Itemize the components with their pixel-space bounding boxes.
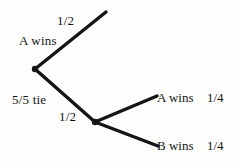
label-second-branch-probability: 1/2 — [59, 110, 76, 124]
branch-line-upper-right — [95, 96, 157, 122]
label-upper-right-probability: 1/4 — [207, 91, 224, 105]
node-second-split — [92, 119, 98, 125]
label-top-branch-probability: 1/2 — [57, 14, 74, 28]
label-upper-right-outcome: A wins — [157, 91, 207, 105]
node-root — [32, 66, 38, 72]
label-lower-right-outcome: B wins — [157, 139, 207, 153]
leaf-lower-right: B wins1/4 — [157, 139, 224, 153]
leaf-upper-right: A wins1/4 — [157, 91, 224, 105]
label-lower-right-probability: 1/4 — [207, 139, 224, 153]
branch-line-lower-right — [95, 122, 158, 146]
probability-tree-diagram: 1/2 A wins 5/5 tie 1/2 A wins1/4 B wins1… — [0, 0, 240, 165]
label-root-tie: 5/5 tie — [12, 93, 46, 107]
label-top-branch-outcome: A wins — [19, 34, 57, 48]
